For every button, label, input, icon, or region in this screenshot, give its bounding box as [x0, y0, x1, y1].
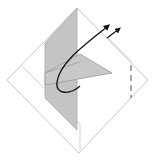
- secondary-arrow: [107, 29, 119, 38]
- diagram-svg: [0, 0, 155, 165]
- outer-square: [7, 8, 148, 153]
- origami-diagram: Origami fold step: [0, 0, 155, 165]
